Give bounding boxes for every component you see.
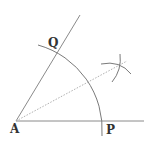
bisector-line	[16, 61, 127, 121]
arc-from-q	[101, 63, 131, 74]
label-a: A	[10, 123, 19, 135]
arc-pq	[38, 45, 102, 136]
diagram-svg	[0, 0, 155, 142]
angle-bisector-diagram: A P Q	[0, 0, 155, 142]
ray-aq	[16, 15, 80, 121]
label-q: Q	[48, 37, 58, 49]
arc-from-p	[112, 54, 120, 82]
label-p: P	[106, 124, 115, 136]
